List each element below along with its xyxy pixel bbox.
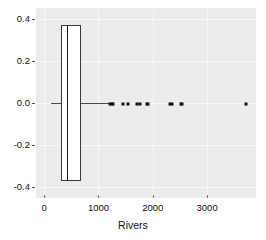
y-axis-tick-label: 0.2 xyxy=(0,55,30,66)
boxplot-outlier-point xyxy=(146,102,149,105)
y-axis-tick-mark xyxy=(32,187,35,188)
x-axis-tick-mark xyxy=(207,195,208,198)
y-axis-tick-label: 0.4 xyxy=(0,13,30,24)
x-axis-tick-label: 2000 xyxy=(142,202,163,213)
x-axis-tick-mark xyxy=(98,195,99,198)
boxplot-outlier-point xyxy=(121,102,124,105)
y-axis-tick-label: -0.2 xyxy=(0,139,30,150)
boxplot-upper-whisker xyxy=(81,103,110,104)
x-axis-tick-mark xyxy=(44,195,45,198)
boxplot-outlier-point xyxy=(112,102,115,105)
gridline-horizontal xyxy=(36,187,256,188)
x-axis-tick-label: 1000 xyxy=(88,202,109,213)
boxplot-box xyxy=(61,25,81,181)
boxplot-outlier-point xyxy=(244,102,247,105)
boxplot-outlier-point xyxy=(170,102,173,105)
y-axis-tick-mark xyxy=(32,103,35,104)
boxplot-outlier-point xyxy=(181,102,184,105)
gridline-horizontal xyxy=(36,19,256,20)
y-axis-tick-mark xyxy=(32,61,35,62)
y-axis-tick-label: -0.4 xyxy=(0,181,30,192)
x-axis-title: Rivers xyxy=(0,219,266,231)
boxplot-outlier-point xyxy=(139,102,142,105)
boxplot-figure: 0.40.20.0-0.2-0.4 0100020003000 Rivers xyxy=(0,0,266,240)
boxplot-median-line xyxy=(67,25,68,181)
gridline-vertical xyxy=(44,8,45,198)
y-axis-tick-label: 0.0 xyxy=(0,97,30,108)
x-axis-tick-label: 3000 xyxy=(197,202,218,213)
x-axis-tick-label: 0 xyxy=(41,202,46,213)
y-axis-tick-mark xyxy=(32,19,35,20)
y-axis-tick-mark xyxy=(32,145,35,146)
gridline-vertical xyxy=(207,8,208,198)
boxplot-lower-whisker xyxy=(51,103,61,104)
x-axis-tick-mark xyxy=(153,195,154,198)
boxplot-outlier-point xyxy=(126,102,129,105)
gridline-vertical xyxy=(153,8,154,198)
